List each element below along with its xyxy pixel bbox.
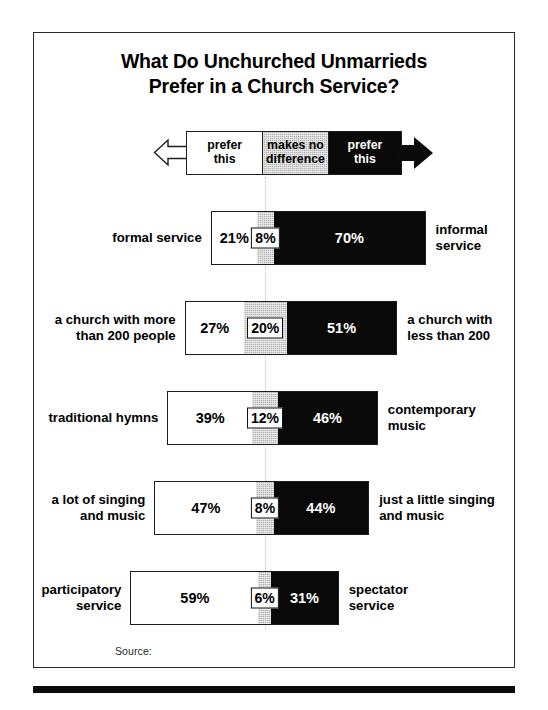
legend-left-line-2: this — [207, 153, 242, 167]
left-label-wrap: a church with morethan 200 people — [34, 283, 176, 373]
chart-row: formal service21%8%70%informal service — [34, 193, 516, 283]
bar-segment-left: 21% — [212, 212, 257, 264]
title-line-1: What Do Unchurched Unmarrieds — [34, 49, 514, 74]
right-label-wrap: a church withless than 200 — [407, 283, 512, 373]
chart-row: a church with morethan 200 people27%20%5… — [34, 283, 516, 373]
row-left-label: participatoryservice — [42, 571, 122, 625]
row-left-label: a lot of singingand music — [52, 481, 146, 535]
page-title: What Do Unchurched Unmarrieds Prefer in … — [34, 49, 514, 99]
bar-segment-left: 39% — [168, 392, 252, 444]
bar-segment-middle-value: 8% — [251, 228, 279, 249]
legend-bar: prefer this makes no difference prefer t… — [186, 131, 402, 175]
legend-middle-line-2: difference — [266, 153, 325, 167]
bar-segment-middle: 12% — [252, 392, 278, 444]
bar-segment-right: 44% — [274, 482, 369, 534]
bar-segment-middle: 8% — [256, 482, 273, 534]
bar-segment-middle-value: 20% — [247, 318, 283, 339]
left-arrow-outline-icon — [153, 136, 189, 169]
bar-segment-left: 47% — [155, 482, 256, 534]
bar-segment-left-value: 21% — [220, 230, 249, 246]
chart-row-inner: formal service21%8%70%informal service — [34, 193, 516, 283]
left-label-wrap: formal service — [34, 193, 202, 283]
diverging-bar: 47%8%44% — [154, 481, 369, 535]
row-left-label-line-1: traditional hymns — [48, 410, 158, 425]
row-right-label: informal service — [436, 211, 512, 265]
bar-segment-left-value: 39% — [196, 410, 225, 426]
diverging-bar: 27%20%51% — [185, 301, 398, 355]
row-left-label-line-1: a lot of singing — [52, 492, 146, 508]
row-right-label-line-1: a church with — [407, 312, 492, 328]
row-left-label-line-1: participatory — [42, 582, 122, 598]
row-left-label-line-1: formal service — [112, 230, 201, 245]
bar-segment-left: 59% — [131, 572, 258, 624]
bar-segment-left-value: 47% — [191, 500, 220, 516]
row-right-label-line-1: spectator — [349, 582, 408, 598]
bar-segment-middle-value: 6% — [251, 588, 279, 609]
right-label-wrap: just a little singingand music — [379, 463, 512, 553]
legend-segment-prefer-left: prefer this — [187, 132, 262, 174]
chart-row-inner: a lot of singingand music47%8%44%just a … — [34, 463, 516, 553]
bar-segment-right-value: 51% — [327, 320, 356, 336]
right-label-wrap: contemporarymusic — [388, 373, 512, 463]
right-label-wrap: informal service — [436, 193, 512, 283]
row-right-label-line-2: music — [388, 418, 476, 434]
row-left-label: a church with morethan 200 people — [55, 301, 176, 355]
legend-left-line-1: prefer — [207, 139, 242, 153]
row-right-label-line-2: service — [349, 598, 408, 614]
bar-segment-right: 51% — [287, 302, 397, 354]
legend-right-line-1: prefer — [347, 139, 382, 153]
row-right-label: a church withless than 200 — [407, 301, 492, 355]
bar-segment-middle: 20% — [244, 302, 287, 354]
bar-segment-middle-value: 8% — [251, 498, 279, 519]
bar-segment-right-value: 70% — [335, 230, 364, 246]
source-label: Source: — [115, 645, 152, 657]
chart-row: a lot of singingand music47%8%44%just a … — [34, 463, 516, 553]
diverging-bar: 21%8%70% — [211, 211, 426, 265]
row-right-label: just a little singingand music — [379, 481, 495, 535]
bar-segment-right-value: 31% — [290, 590, 319, 606]
legend-middle-line-1: makes no — [266, 139, 325, 153]
row-right-label-line-1: just a little singing — [379, 492, 495, 508]
chart-row-inner: a church with morethan 200 people27%20%5… — [34, 283, 516, 373]
bar-segment-middle: 8% — [257, 212, 274, 264]
bar-segment-left: 27% — [186, 302, 244, 354]
legend-key: prefer this makes no difference prefer t… — [153, 129, 409, 177]
row-left-label-line-2: and music — [52, 508, 146, 524]
diverging-bar: 59%6%31% — [130, 571, 338, 625]
bar-segment-right: 70% — [274, 212, 424, 264]
chart-row: traditional hymns39%12%46%contemporarymu… — [34, 373, 516, 463]
bar-segment-right: 31% — [271, 572, 338, 624]
bar-segment-left-value: 27% — [200, 320, 229, 336]
diverging-bar: 39%12%46% — [167, 391, 377, 445]
bar-segment-middle-value: 12% — [247, 408, 283, 429]
bar-segment-right: 46% — [278, 392, 377, 444]
legend-segment-no-difference: makes no difference — [262, 132, 328, 174]
chart-row: participatoryservice59%6%31%spectatorser… — [34, 553, 516, 643]
right-arrow-solid-icon — [394, 134, 434, 172]
chart-row-inner: traditional hymns39%12%46%contemporarymu… — [34, 373, 516, 463]
bar-segment-right-value: 44% — [306, 500, 335, 516]
bar-segment-left-value: 59% — [180, 590, 209, 606]
legend-right-line-2: this — [347, 153, 382, 167]
row-right-label-line-1: contemporary — [388, 402, 476, 418]
chart-rows: formal service21%8%70%informal servicea … — [34, 193, 516, 643]
row-right-label-line-1: informal service — [436, 222, 488, 253]
bar-segment-middle: 6% — [258, 572, 271, 624]
left-label-wrap: a lot of singingand music — [34, 463, 145, 553]
row-right-label: contemporarymusic — [388, 391, 476, 445]
row-right-label-line-2: and music — [379, 508, 495, 524]
left-label-wrap: participatoryservice — [34, 553, 121, 643]
row-right-label: spectatorservice — [349, 571, 408, 625]
title-line-2: Prefer in a Church Service? — [34, 74, 514, 99]
row-left-label-line-1: a church with more — [55, 312, 176, 328]
legend-segment-prefer-right: prefer this — [329, 132, 401, 174]
bottom-rule — [33, 686, 515, 693]
left-label-wrap: traditional hymns — [34, 373, 158, 463]
right-label-wrap: spectatorservice — [349, 553, 512, 643]
chart-frame: What Do Unchurched Unmarrieds Prefer in … — [33, 32, 515, 668]
bar-segment-right-value: 46% — [313, 410, 342, 426]
row-left-label: formal service — [112, 211, 201, 265]
row-left-label: traditional hymns — [48, 391, 158, 445]
row-left-label-line-2: than 200 people — [55, 328, 176, 344]
row-left-label-line-2: service — [42, 598, 122, 614]
